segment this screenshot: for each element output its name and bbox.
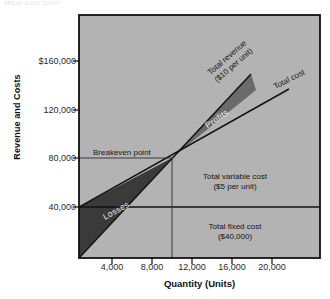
annotation-total-variable-cost-line1: Total variable cost xyxy=(185,172,285,182)
chart-plot-area xyxy=(0,0,330,299)
annotation-total-variable-cost-line2: ($5 per unit) xyxy=(185,182,285,192)
annotation-breakeven-point: Breakeven point xyxy=(93,148,151,158)
annotation-total-fixed-cost-line1: Total fixed cost xyxy=(185,222,285,232)
annotation-total-variable-cost: Total variable cost ($5 per unit) xyxy=(185,172,285,192)
annotation-total-fixed-cost: Total fixed cost ($40,000) xyxy=(185,222,285,242)
annotation-total-fixed-cost-line2: ($40,000) xyxy=(185,232,285,242)
breakeven-chart-figure: BREAK-EVEN CHART Revenue and Costs $160,… xyxy=(0,0,330,299)
